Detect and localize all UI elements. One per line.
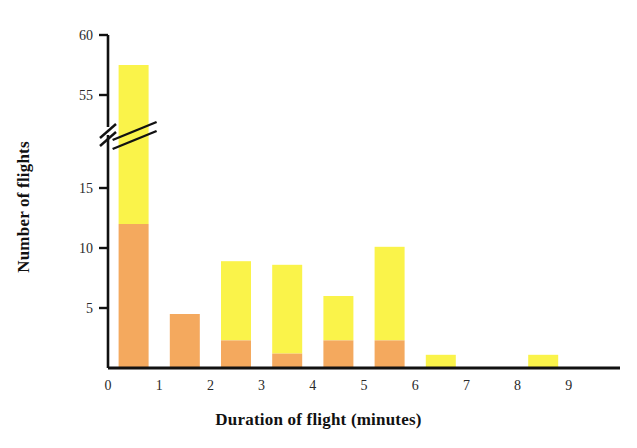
bar-segment-upper xyxy=(272,265,302,354)
y-tick-label: 10 xyxy=(79,241,93,256)
bar-4-5 xyxy=(323,296,353,368)
y-tick-label: 5 xyxy=(86,301,93,316)
bar-segment-upper xyxy=(323,296,353,340)
bar-0-1 xyxy=(119,65,149,368)
y-tick-label: 60 xyxy=(79,28,93,43)
bar-1-2 xyxy=(170,314,200,368)
x-tick-label: 1 xyxy=(156,378,163,393)
y-tick-label: 55 xyxy=(79,88,93,103)
bar-segment-lower xyxy=(221,340,251,368)
x-tick-label: 9 xyxy=(565,378,572,393)
plot-area: 5101555600123456789 xyxy=(0,0,637,448)
x-tick-label: 5 xyxy=(361,378,368,393)
y-tick-label: 15 xyxy=(79,181,93,196)
bar-segment-lower xyxy=(119,224,149,368)
bar-6-7 xyxy=(426,355,456,368)
bar-2-3 xyxy=(221,261,251,368)
bar-segment-upper xyxy=(221,261,251,340)
x-tick-label: 0 xyxy=(105,378,112,393)
bar-segment-upper xyxy=(375,247,405,341)
x-tick-label: 7 xyxy=(463,378,470,393)
bar-segment-lower xyxy=(375,340,405,368)
x-tick-label: 8 xyxy=(514,378,521,393)
bar-segment-upper xyxy=(426,355,456,368)
x-tick-label: 2 xyxy=(207,378,214,393)
bar-segment-lower xyxy=(272,354,302,368)
x-tick-label: 4 xyxy=(309,378,316,393)
bar-segment-lower xyxy=(170,314,200,368)
chart-container: Number of flights Duration of flight (mi… xyxy=(0,0,637,448)
y-axis-ticks: 510155560 xyxy=(79,28,108,316)
x-tick-label: 3 xyxy=(258,378,265,393)
bar-segment-upper xyxy=(528,355,558,368)
x-axis-ticks: 0123456789 xyxy=(105,378,573,393)
bar-5-6 xyxy=(375,247,405,368)
x-tick-label: 6 xyxy=(412,378,419,393)
bar-3-4 xyxy=(272,265,302,368)
bar-8-9 xyxy=(528,355,558,368)
bar-segment-lower xyxy=(323,340,353,368)
